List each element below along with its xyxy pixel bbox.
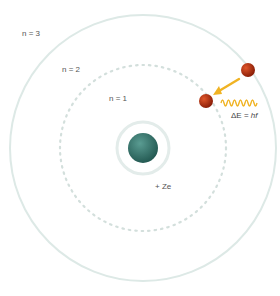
equation-prefix: ΔE = (231, 111, 251, 120)
bohr-model-diagram (0, 0, 280, 296)
orbit-label-n3: n = 3 (22, 29, 40, 38)
orbit-label-n1: n = 1 (109, 94, 127, 103)
nucleus (128, 133, 158, 163)
electron-final (199, 94, 213, 108)
orbit-label-n2: n = 2 (62, 65, 80, 74)
equation-variable: hf (251, 111, 258, 120)
transition-arrow-icon (213, 79, 239, 95)
photon-wave-icon (221, 100, 257, 106)
electron-initial (241, 63, 255, 77)
nucleus-charge-label: + Ze (155, 182, 171, 191)
photon-energy-equation: ΔE = hf (231, 111, 257, 120)
